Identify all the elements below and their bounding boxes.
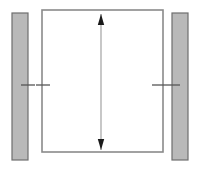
main-frame-rectangle	[42, 10, 163, 152]
left-post-rectangle	[12, 13, 28, 160]
technical-drawing-svg	[0, 0, 201, 169]
drawing-canvas	[0, 0, 201, 169]
right-post-rectangle	[172, 13, 188, 160]
